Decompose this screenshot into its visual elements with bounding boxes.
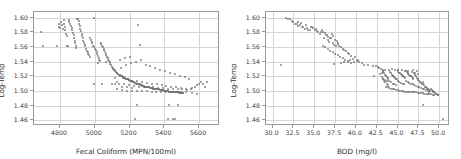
scatter-point	[188, 78, 190, 80]
scatter-point	[99, 60, 101, 62]
scatter-point	[78, 20, 80, 22]
scatter-point	[319, 33, 321, 35]
gridline-horizontal	[266, 32, 448, 33]
scatter-point	[280, 64, 282, 66]
scatter-point	[196, 93, 198, 95]
scatter-point	[206, 81, 208, 83]
scatter-point	[339, 56, 341, 58]
scatter-point	[136, 90, 138, 92]
y-tick-label: 1.48	[9, 101, 28, 108]
scatter-point	[347, 61, 349, 63]
x-tick-mark	[355, 125, 356, 128]
gridline-vertical	[335, 12, 336, 124]
y-tick-label: 1.50	[241, 86, 260, 93]
x-tick-mark	[334, 125, 335, 128]
x-tick-mark	[438, 125, 439, 128]
plot-area-fecal-coliform	[33, 11, 219, 125]
y-tick-mark	[30, 90, 33, 91]
y-tick-mark	[262, 119, 265, 120]
scatter-point	[372, 65, 374, 67]
scatter-point	[64, 29, 66, 31]
scatter-point	[184, 76, 186, 78]
gridline-vertical	[164, 12, 165, 124]
scatter-point	[191, 87, 193, 89]
chart-panel-bod: 30.032.535.037.540.042.545.047.550.01.46…	[230, 0, 461, 159]
x-tick-label: 5600	[190, 129, 206, 136]
y-tick-mark	[262, 61, 265, 62]
scatter-point	[119, 59, 121, 61]
scatter-point	[141, 90, 143, 92]
scatter-point	[165, 85, 167, 87]
y-tick-mark	[30, 46, 33, 47]
scatter-point	[73, 34, 75, 36]
x-tick-mark	[94, 125, 95, 128]
x-tick-label: 45.0	[389, 129, 403, 136]
gridline-horizontal	[266, 120, 448, 121]
scatter-point	[309, 29, 311, 31]
scatter-point	[143, 86, 145, 88]
x-tick-label: 30.0	[265, 129, 279, 136]
scatter-point	[146, 90, 148, 92]
x-tick-label: 5200	[121, 129, 137, 136]
x-tick-label: 50.0	[431, 129, 445, 136]
y-tick-label: 1.52	[241, 72, 260, 79]
scatter-point	[363, 64, 365, 66]
scatter-point	[136, 104, 138, 106]
gridline-horizontal	[266, 76, 448, 77]
scatter-point	[179, 75, 181, 77]
scatter-point	[146, 82, 148, 84]
scatter-point	[297, 21, 299, 23]
scatter-point	[401, 69, 403, 71]
scatter-point	[66, 35, 68, 37]
scatter-point	[412, 78, 414, 80]
x-tick-mark	[417, 125, 418, 128]
y-axis-label-bod: Log-Temp	[229, 63, 238, 97]
scatter-point	[101, 83, 103, 85]
scatter-point	[149, 65, 151, 67]
gridline-horizontal	[266, 18, 448, 19]
scatter-point	[97, 62, 99, 64]
y-tick-label: 1.60	[9, 13, 28, 20]
gridline-vertical	[356, 12, 357, 124]
scatter-point	[130, 62, 132, 64]
y-tick-mark	[262, 90, 265, 91]
scatter-point	[131, 87, 133, 89]
gridline-horizontal	[34, 106, 218, 107]
y-tick-label: 1.46	[241, 116, 260, 123]
scatter-point	[138, 86, 140, 88]
scatter-point	[325, 34, 327, 36]
y-tick-mark	[30, 17, 33, 18]
scatter-point	[397, 69, 399, 71]
scatter-point	[327, 48, 329, 50]
scatter-point	[191, 92, 193, 94]
y-tick-mark	[262, 46, 265, 47]
scatter-point	[73, 37, 75, 39]
scatter-point	[89, 56, 91, 58]
scatter-point	[131, 90, 133, 92]
gridline-vertical	[273, 12, 274, 124]
gridline-horizontal	[34, 62, 218, 63]
scatter-point	[135, 61, 137, 63]
x-tick-label: 40.0	[348, 129, 362, 136]
scatter-point	[151, 83, 153, 85]
x-tick-mark	[313, 125, 314, 128]
y-tick-label: 1.50	[9, 86, 28, 93]
y-axis-label-fecal-coliform: Log-Temp	[0, 63, 6, 97]
x-tick-mark	[272, 125, 273, 128]
y-tick-label: 1.58	[241, 28, 260, 35]
chart-panel-fecal-coliform: 480050005200540056001.461.481.501.521.54…	[0, 0, 230, 159]
scatter-point	[328, 41, 330, 43]
gridline-vertical	[199, 12, 200, 124]
y-tick-mark	[262, 17, 265, 18]
scatter-point	[367, 64, 369, 66]
scatter-point	[139, 44, 141, 46]
scatter-point	[323, 37, 325, 39]
scatter-point	[358, 61, 360, 63]
scatter-point	[114, 83, 116, 85]
scatter-point	[128, 84, 130, 86]
scatter-point	[175, 91, 177, 93]
y-tick-label: 1.54	[9, 57, 28, 64]
scatter-point	[330, 37, 332, 39]
scatter-point	[433, 94, 435, 96]
scatter-point	[185, 91, 187, 93]
